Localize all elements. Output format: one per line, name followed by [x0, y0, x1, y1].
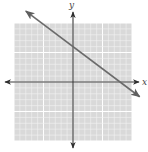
coordinate-plane-chart: x y: [0, 0, 148, 152]
x-axis-label: x: [142, 77, 147, 87]
y-axis-label: y: [68, 0, 75, 10]
